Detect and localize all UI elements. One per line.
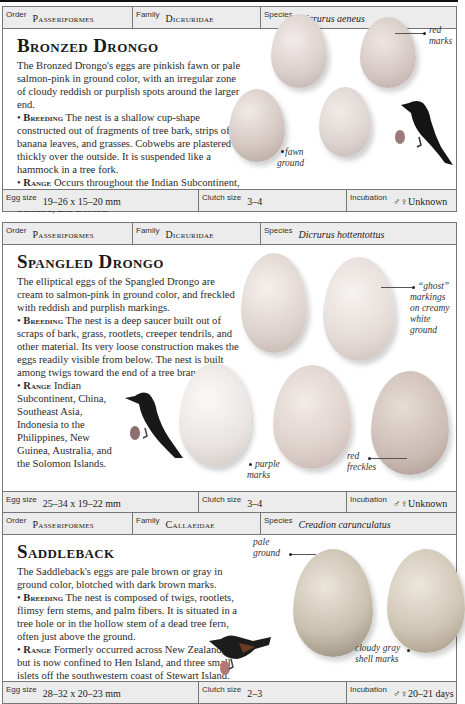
breeding-paragraph: • Breeding The nest is composed of twigs… [17,591,239,643]
saddleback-bird-illustration [209,631,273,671]
family-value: Callaeidae [166,519,215,530]
order-label: Order [6,516,26,525]
egg-illustration [323,257,395,361]
callout-leader [381,287,412,288]
breeding-heading: Breeding [23,592,63,603]
incubation-cell: Incubation ♂♀Unknown [347,190,456,211]
order-value: Passeriformes [32,519,94,530]
callout-red-marks: red marks [429,25,457,47]
entry-description: The Saddleback's eggs are pale brown or … [17,565,239,682]
family-value: Dicruridae [166,13,214,24]
egg-illustration [293,549,373,657]
clutch-size-cell: Clutch size 3–4 [199,190,347,211]
intro-text: The Bronzed Drongo's eggs are pinkish fa… [17,59,243,111]
drongo-bird-illustration [395,95,455,175]
incubation-label: Incubation [350,495,387,504]
egg-illustration [371,371,449,475]
callout-leader [395,33,423,34]
taxonomy-header: Order Passeriformes Family Dicruridae Sp… [3,223,456,245]
order-cell: Order Passeriformes [3,223,133,244]
entry-title: Bronzed Drongo [17,35,158,57]
family-label: Family [136,10,160,19]
range-paragraph: • Range Indian Subcontinent, China, Sout… [17,379,115,470]
egg-facts-footer: Egg size 28–32 x 20–23 mm Clutch size 2–… [3,681,456,703]
range-heading: Range [23,177,51,188]
breeding-heading: Breeding [23,315,63,326]
taxonomy-header: Order Passeriformes Family Callaeidae Sp… [3,513,456,535]
family-cell: Family Dicruridae [133,7,261,28]
incubation-cell: Incubation ♂♀Unknown [347,492,456,513]
family-value: Dicruridae [166,229,214,240]
breeding-paragraph: • Breeding The nest is a shallow cup-sha… [17,111,243,176]
incubation-value: ♂♀Unknown [393,498,447,509]
clutch-size-label: Clutch size [202,495,241,504]
intro-text: The elliptical eggs of the Spangled Dron… [17,275,239,314]
egg-illustration [273,365,351,469]
range-paragraph: • Range Formerly occurred across New Zea… [17,643,239,682]
drongo-bird-illustration [125,388,187,468]
callout-pale-ground: pale ground [253,537,285,559]
clutch-size-cell: Clutch size 3–4 [199,492,347,513]
family-label: Family [136,516,160,525]
incubation-value: ♂♀Unknown [393,196,447,207]
breeding-heading: Breeding [23,112,63,123]
family-cell: Family Callaeidae [133,513,261,534]
callout-marker [407,649,410,652]
entry-title: Saddleback [17,541,115,563]
callout-marker [423,32,426,35]
order-value: Passeriformes [32,13,94,24]
egg-size-label: Egg size [6,685,37,694]
egg-size-cell: Egg size 19–26 x 15–20 mm [3,190,199,211]
entry-saddleback: Order Passeriformes Family Callaeidae Sp… [2,512,457,704]
egg-illustration [319,87,371,157]
species-cell: Species Dicrurus hottentottus [261,223,456,244]
family-label: Family [136,226,160,235]
range-heading: Range [23,380,51,391]
egg-illustration [179,363,251,467]
egg-size-cell: Egg size 28–32 x 20–23 mm [3,682,199,703]
clutch-size-label: Clutch size [202,193,241,202]
egg-illustration [387,549,465,653]
egg-illustration [241,253,307,353]
egg-size-cell: Egg size 25–34 x 19–22 mm [3,492,199,513]
egg-size-value: 28–32 x 20–23 mm [43,688,121,699]
clutch-size-cell: Clutch size 2–3 [199,682,347,703]
entry-title: Spangled Drongo [17,251,164,273]
species-cell: Species Creadion carunculatus [261,513,456,534]
egg-facts-footer: Egg size 25–34 x 19–22 mm Clutch size 3–… [3,491,456,513]
species-label: Species [264,226,292,235]
egg-size-value: 25–34 x 19–22 mm [43,498,121,509]
callout-ghost-markings: “ghost” markings on creamy white ground [410,281,456,336]
incubation-label: Incubation [350,193,387,202]
clutch-size-label: Clutch size [202,685,241,694]
order-cell: Order Passeriformes [3,513,133,534]
species-label: Species [264,516,292,525]
range-text: Indian Subcontinent, China, Southeast As… [17,380,112,469]
callout-fawn-ground: fawn ground [277,147,313,169]
order-label: Order [6,10,26,19]
callout-cloudy-gray-shell-marks: cloudy gray shell marks [355,643,407,665]
intro-text: The Saddleback's eggs are pale brown or … [17,565,239,591]
order-value: Passeriformes [32,229,94,240]
clutch-size-value: 3–4 [247,196,262,207]
callout-red-freckles: red freckles [347,451,381,473]
callout-leader [292,554,316,555]
clutch-size-value: 3–4 [247,498,262,509]
entry-bronzed-drongo: Order Passeriformes Family Dicruridae Sp… [2,6,457,212]
order-label: Order [6,226,26,235]
egg-size-label: Egg size [6,495,37,504]
order-cell: Order Passeriformes [3,7,133,28]
incubation-cell: Incubation ♂♀20–21 days [347,682,456,703]
egg-facts-footer: Egg size 19–26 x 15–20 mm Clutch size 3–… [3,189,456,211]
page-top-rule [0,0,458,2]
range-heading: Range [23,644,51,655]
callout-purple-marks: purple marks [247,459,283,481]
species-value: Creadion carunculatus [298,519,390,530]
family-cell: Family Dicruridae [133,223,261,244]
species-value: Dicrurus hottentottus [298,229,384,240]
egg-size-value: 19–26 x 15–20 mm [43,196,121,207]
egg-size-label: Egg size [6,193,37,202]
entry-spangled-drongo: Order Passeriformes Family Dicruridae Sp… [2,222,457,514]
incubation-value: ♂♀20–21 days [393,688,454,699]
incubation-label: Incubation [350,685,387,694]
